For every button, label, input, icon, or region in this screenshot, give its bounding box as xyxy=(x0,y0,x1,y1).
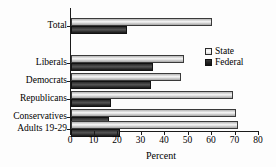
bar-state[interactable] xyxy=(71,73,181,81)
x-axis-tick-label: 50 xyxy=(183,136,193,146)
bar-state[interactable] xyxy=(71,121,238,129)
legend-swatch-state-icon xyxy=(205,48,212,55)
bar-federal[interactable] xyxy=(71,81,151,89)
y-axis-tick xyxy=(67,26,70,27)
legend: State Federal xyxy=(205,46,244,68)
x-axis-tick-label: 40 xyxy=(159,136,169,146)
category-label: Conservatives xyxy=(13,112,67,122)
x-axis-tick-label: 60 xyxy=(206,136,216,146)
category-label: Total xyxy=(48,21,67,31)
category-label: Adults 19-29 xyxy=(17,124,67,134)
x-axis-title: Percent xyxy=(0,150,276,161)
category-label: Liberals xyxy=(36,58,67,68)
bar-federal[interactable] xyxy=(71,63,153,71)
x-axis-tick-label: 70 xyxy=(230,136,240,146)
legend-label-state: State xyxy=(215,46,234,57)
legend-item-federal[interactable]: Federal xyxy=(205,57,244,68)
bar-state[interactable] xyxy=(71,55,184,63)
x-axis-tick-label: 10 xyxy=(89,136,99,146)
category-label: Republicans xyxy=(20,94,67,104)
bar-chart: TotalLiberalsDemocratsRepublicansConserv… xyxy=(0,0,276,167)
bar-federal[interactable] xyxy=(71,99,111,107)
y-axis-tick xyxy=(67,99,70,100)
category-label: Democrats xyxy=(26,76,67,86)
x-axis-title-text: Percent xyxy=(146,150,176,161)
y-axis-tick xyxy=(67,117,70,118)
y-axis-tick xyxy=(67,63,70,64)
y-axis-tick xyxy=(67,81,70,82)
x-axis-tick-label: 30 xyxy=(136,136,146,146)
bar-state[interactable] xyxy=(71,18,212,26)
x-axis-tick-label: 80 xyxy=(253,136,263,146)
legend-swatch-federal-icon xyxy=(205,59,212,66)
plot-area: TotalLiberalsDemocratsRepublicansConserv… xyxy=(70,8,258,130)
bar-state[interactable] xyxy=(71,91,233,99)
legend-item-state[interactable]: State xyxy=(205,46,244,57)
legend-label-federal: Federal xyxy=(215,57,244,68)
x-axis-tick-label: 0 xyxy=(68,136,73,146)
y-axis-tick xyxy=(67,129,70,130)
bar-state[interactable] xyxy=(71,109,236,117)
x-axis-tick-label: 20 xyxy=(112,136,122,146)
bar-federal[interactable] xyxy=(71,26,127,34)
